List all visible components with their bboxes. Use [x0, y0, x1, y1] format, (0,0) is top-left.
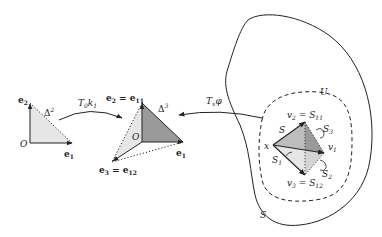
S-manifold-label: S [260, 210, 266, 220]
face-S1-label: S1 [272, 155, 282, 166]
manifold: U S x v2 = S11 v3 = S12 v1 S S1 S3 S2 [226, 15, 372, 226]
face-S3-label: S3 [323, 124, 333, 135]
t0k1-label: T0k1 [78, 98, 97, 109]
left-origin-label: O [20, 139, 28, 149]
point-x-label: x [264, 141, 269, 151]
middle-e1-label: e1 [176, 148, 186, 159]
v3-label: v3 = S12 [287, 178, 323, 189]
delta2-label: Δ2 [44, 106, 55, 118]
map-arrow-txphi: Txφ [179, 96, 262, 118]
v2-label: v2 = S11 [287, 110, 323, 121]
left-e2-label: e2 [18, 95, 28, 106]
U-label: U [320, 87, 328, 97]
middle-e2-label: e2 = e11 [106, 93, 144, 104]
v1-label: v1 [328, 142, 337, 153]
curved-arrow-left [59, 111, 122, 120]
simplex-mapping-diagram: O e2 e1 Δ2 T0k1 O e2 = e11 e3 = e12 e1 Δ… [0, 0, 382, 237]
txphi-label: Txφ [206, 96, 222, 107]
middle-origin-label: O [132, 132, 140, 142]
face-S2-label: S2 [322, 169, 332, 180]
left-simplex: O e2 e1 Δ2 [18, 95, 74, 160]
middle-simplex: O e2 = e11 e3 = e12 e1 Δ3 [99, 93, 186, 176]
delta3-label: Δ3 [158, 102, 169, 114]
middle-e3-label: e3 = e12 [99, 165, 137, 176]
face-S-label: S [279, 125, 285, 135]
left-e1-label: e1 [64, 149, 74, 160]
curved-arrow-right [179, 112, 262, 118]
